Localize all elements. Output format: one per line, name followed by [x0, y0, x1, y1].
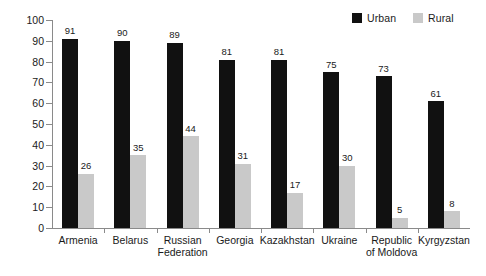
bar-value-label: 61	[431, 89, 442, 99]
bar-group: 618	[418, 20, 470, 228]
bar-rural: 44	[183, 136, 199, 228]
bar-urban: 61	[428, 101, 444, 228]
bar-value-label: 26	[81, 161, 92, 171]
bar-value-label: 8	[449, 199, 454, 209]
x-axis-tick-mark	[157, 229, 158, 233]
bar-value-label: 81	[222, 47, 233, 57]
bar-urban: 90	[114, 41, 130, 228]
bar-value-label: 35	[133, 143, 144, 153]
bar-group: 8117	[261, 20, 313, 228]
bar-value-label: 30	[342, 153, 353, 163]
bar-value-label: 90	[117, 28, 128, 38]
y-axis-tick-label: 90	[0, 36, 44, 47]
bar-group: 8944	[157, 20, 209, 228]
bar-group: 9035	[104, 20, 156, 228]
y-axis-tick-label: 0	[0, 223, 44, 234]
y-axis-tick-label: 70	[0, 77, 44, 88]
bar-value-label: 91	[65, 26, 76, 36]
bar-rural: 35	[130, 155, 146, 228]
bar-value-label: 75	[326, 60, 337, 70]
bar-rural: 17	[287, 193, 303, 228]
y-axis-tick-label: 60	[0, 98, 44, 109]
bar-value-label: 31	[238, 151, 249, 161]
y-axis-tick-label: 40	[0, 140, 44, 151]
bar-rural: 30	[339, 166, 355, 228]
y-axis-tick-label: 100	[0, 15, 44, 26]
plot-area: 912690358944813181177530735618	[52, 20, 470, 228]
bar-urban: 91	[62, 39, 78, 228]
bar-urban: 75	[323, 72, 339, 228]
bar-chart: UrbanRural 0102030405060708090100 912690…	[0, 0, 486, 276]
y-axis-tick-label: 30	[0, 160, 44, 171]
bar-urban: 73	[376, 76, 392, 228]
bar-group: 7530	[313, 20, 365, 228]
y-axis-tick-label: 10	[0, 202, 44, 213]
bar-value-label: 89	[169, 30, 180, 40]
y-axis-tick-label: 80	[0, 56, 44, 67]
y-axis-labels: 0102030405060708090100	[0, 0, 44, 276]
bar-urban: 81	[219, 60, 235, 228]
y-axis-tick-label: 20	[0, 181, 44, 192]
bar-rural: 8	[444, 211, 460, 228]
bar-value-label: 17	[290, 180, 301, 190]
x-axis-category-label: Kyrgyzstan	[412, 234, 476, 246]
bar-value-label: 81	[274, 47, 285, 57]
y-axis-tick-label: 50	[0, 119, 44, 130]
x-axis-tick-mark	[209, 229, 210, 233]
bar-value-label: 5	[397, 205, 402, 215]
bar-rural: 26	[78, 174, 94, 228]
bar-rural: 31	[235, 164, 251, 228]
bar-urban: 89	[167, 43, 183, 228]
x-axis-tick-mark	[418, 229, 419, 233]
bar-rural: 5	[392, 218, 408, 228]
x-axis-tick-mark	[104, 229, 105, 233]
x-axis-tick-mark	[261, 229, 262, 233]
x-axis-tick-mark	[313, 229, 314, 233]
bar-value-label: 44	[185, 124, 196, 134]
x-axis-tick-mark	[366, 229, 367, 233]
bar-urban: 81	[271, 60, 287, 228]
bar-group: 9126	[52, 20, 104, 228]
bar-value-label: 73	[378, 64, 389, 74]
bar-group: 8131	[209, 20, 261, 228]
bar-group: 735	[366, 20, 418, 228]
